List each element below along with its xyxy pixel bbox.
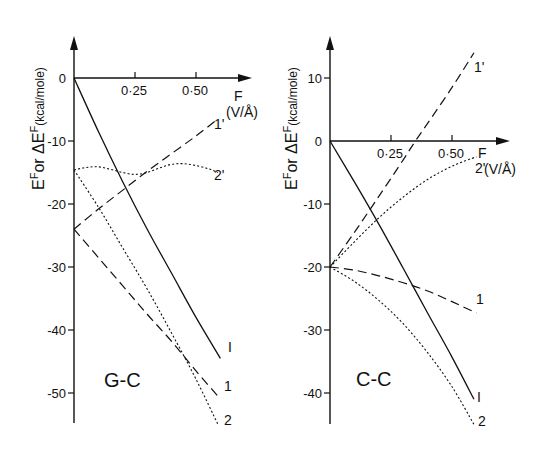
curve-1prime: [74, 119, 218, 229]
y-axis-arrow-icon: [70, 36, 78, 50]
curve-2: [74, 170, 218, 425]
panel-title: G-C: [104, 369, 141, 391]
y-tick-label: -50: [47, 386, 66, 401]
curve-1: [330, 267, 476, 313]
curve-label-2: 2: [224, 412, 232, 428]
x-axis-arrow-icon: [496, 137, 510, 145]
curve-label-2: 2: [478, 413, 486, 429]
curve-label-2prime: 2': [475, 160, 485, 176]
curve-label-1prime: 1': [474, 59, 484, 75]
curves: [74, 78, 220, 425]
curve-label-1prime: 1': [214, 116, 224, 132]
curve-label-I: I: [477, 389, 481, 405]
curve-label-1: 1: [476, 291, 484, 307]
curve-2: [330, 267, 474, 425]
x-tick-label: 0·25: [377, 146, 403, 161]
curve-2prime: [330, 157, 476, 267]
x-axis-name: F: [234, 88, 243, 104]
axes: 0·250·500-10-20-30-40-50: [47, 36, 252, 423]
y-tick-label: -20: [47, 197, 66, 212]
x-tick-label: 0·50: [438, 146, 464, 161]
panel-gc: 0·250·500-10-20-30-40-50 EFor ΔEF(kcal/m…: [28, 36, 258, 428]
x-axis-unit: (V/Å): [226, 104, 258, 120]
x-axis-unit: (V/Å): [484, 161, 516, 177]
curves: [330, 53, 476, 425]
y-tick-label: -40: [303, 386, 322, 401]
y-tick-label: 0: [59, 71, 66, 86]
x-axis-arrow-icon: [238, 74, 252, 82]
curve-label-1: 1: [224, 378, 232, 394]
y-tick-label: -10: [303, 197, 322, 212]
y-axis-arrow-icon: [326, 36, 334, 50]
curve-1: [74, 229, 218, 396]
y-axis-label: EFor ΔEF(kcal/mole): [28, 67, 47, 190]
axes: 0·250·50100-10-20-30-40: [303, 36, 510, 424]
x-axis-name: F: [478, 145, 487, 161]
figure: 0·250·500-10-20-30-40-50 EFor ΔEF(kcal/m…: [0, 0, 544, 458]
curve-label-2prime: 2': [214, 167, 224, 183]
curve-I: [74, 78, 220, 358]
y-axis-label: EFor ΔEF(kcal/mole): [281, 67, 300, 190]
y-tick-label: -40: [47, 323, 66, 338]
curve-2prime: [74, 164, 218, 175]
y-tick-label: -10: [47, 134, 66, 149]
panel-title: C-C: [356, 368, 392, 390]
y-tick-label: 10: [308, 71, 322, 86]
y-tick-label: 0: [315, 134, 322, 149]
panel-cc: 0·250·50100-10-20-30-40 EFor ΔEF(kcal/mo…: [281, 36, 516, 429]
y-tick-label: -20: [303, 260, 322, 275]
x-tick-label: 0·25: [121, 83, 147, 98]
curve-label-I: I: [228, 339, 232, 355]
x-tick-label: 0·50: [182, 83, 208, 98]
y-tick-label: -30: [303, 323, 322, 338]
y-tick-label: -30: [47, 260, 66, 275]
